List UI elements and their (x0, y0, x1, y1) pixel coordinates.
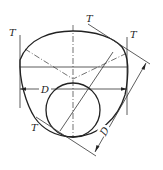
top-right-tangent-line (88, 24, 150, 64)
tangent-label-left: T (9, 27, 17, 38)
tangent-label-top: T (86, 13, 94, 24)
tangent-label-right: T (130, 29, 138, 40)
construction-v-lines (25, 49, 125, 79)
dim-label-horizontal: D (40, 84, 49, 95)
inclined-line (60, 52, 113, 131)
tangent-label-bottom: T (31, 122, 39, 133)
bottom-left-tangent-line (36, 117, 96, 156)
diagonal-dimension-line (95, 63, 146, 152)
diagram-canvas: D D T T T T (0, 0, 163, 170)
